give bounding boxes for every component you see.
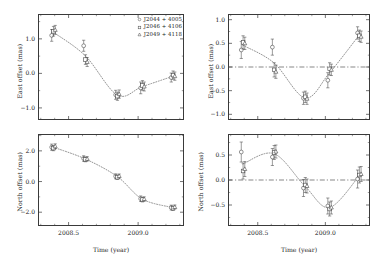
legend-entry: J2049 + 4118: [137, 31, 182, 38]
y-tick-label: −0.5: [204, 201, 225, 208]
panel-d-ylabel: North offset (mas): [197, 142, 204, 212]
y-tick-label: 0.0: [204, 63, 225, 70]
legend-label: J2049 + 4118: [144, 31, 182, 38]
legend-label: J2046 + 4106: [144, 23, 182, 30]
astrometry-figure: J2044 + 4005 J2046 + 4106 J2049 + 4118 E…: [0, 0, 378, 260]
x-tick-label: 2009.0: [122, 229, 154, 236]
square-open-icon: [137, 25, 142, 30]
legend-label: J2044 + 4005: [144, 16, 182, 23]
legend: J2044 + 4005 J2046 + 4106 J2049 + 4118: [137, 16, 182, 38]
y-tick-label: 0.5: [204, 151, 225, 158]
panel-east-offset-residual: [228, 14, 370, 120]
panel-d-xlabel: Time (year): [228, 246, 370, 253]
y-tick-label: 1.0: [14, 35, 35, 42]
legend-entry: J2044 + 4005: [137, 16, 182, 23]
panel-c-plot: [38, 134, 184, 226]
legend-entry: J2046 + 4106: [137, 23, 182, 30]
y-tick-label: −1.0: [204, 110, 225, 117]
x-tick-label: 2009.0: [309, 229, 341, 236]
x-tick-label: 2008.5: [53, 229, 85, 236]
panel-b-plot: [228, 14, 370, 120]
y-tick-label: 0.0: [14, 178, 35, 185]
y-tick-label: 0.5: [204, 39, 225, 46]
y-tick-label: −0.5: [204, 87, 225, 94]
y-tick-label: 0.0: [204, 176, 225, 183]
panel-c-xlabel: Time (year): [38, 246, 184, 253]
y-tick-label: 1.0: [204, 16, 225, 23]
y-tick-label: 2.0: [14, 147, 35, 154]
panel-north-offset-residual: [228, 134, 370, 226]
y-tick-label: −2.0: [14, 208, 35, 215]
y-tick-label: 0.0: [14, 69, 35, 76]
panel-north-offset-total: [38, 134, 184, 226]
panel-east-offset-total: J2044 + 4005 J2046 + 4106 J2049 + 4118: [38, 14, 184, 120]
y-tick-label: −1.0: [14, 104, 35, 111]
triangle-open-icon: [137, 32, 142, 37]
circle-open-icon: [137, 17, 142, 22]
panel-d-plot: [228, 134, 370, 226]
x-tick-label: 2008.5: [242, 229, 274, 236]
